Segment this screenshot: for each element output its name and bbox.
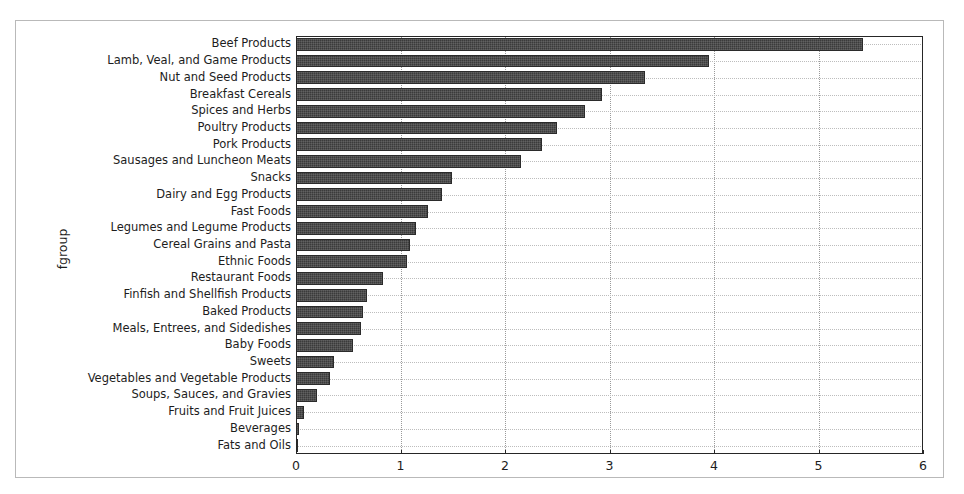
bar-row: Dairy and Egg Products — [296, 188, 923, 201]
bar — [296, 322, 361, 335]
bar — [296, 356, 334, 369]
bar-series: Beef ProductsLamb, Veal, and Game Produc… — [296, 36, 923, 454]
bar-row: Lamb, Veal, and Game Products — [296, 55, 923, 68]
bar-row: Spices and Herbs — [296, 105, 923, 118]
bar — [296, 239, 410, 252]
bar — [296, 188, 442, 201]
y-axis-tick-label: Ethnic Foods — [218, 256, 291, 268]
x-axis-tickmark — [296, 450, 297, 454]
y-axis-tick-label: Cereal Grains and Pasta — [153, 239, 291, 251]
x-axis-tick-label: 2 — [501, 458, 509, 473]
y-axis-tick-label: Finfish and Shellfish Products — [123, 289, 291, 301]
y-axis-tick-label: Legumes and Legume Products — [110, 222, 291, 234]
bar-row: Pork Products — [296, 138, 923, 151]
x-axis-tick-label: 5 — [815, 458, 823, 473]
bar-row: Baked Products — [296, 306, 923, 319]
y-axis-tick-label: Restaurant Foods — [191, 272, 291, 284]
x-axis-ticks: 0123456 — [296, 454, 923, 476]
y-axis-tick-label: Fats and Oils — [218, 440, 292, 452]
y-axis-tick-label: Baked Products — [202, 306, 291, 318]
bar — [296, 71, 645, 84]
x-axis-tick-label: 1 — [397, 458, 405, 473]
bar — [296, 105, 585, 118]
bar — [296, 38, 863, 51]
bar — [296, 255, 407, 268]
bar-row: Restaurant Foods — [296, 272, 923, 285]
bar — [296, 172, 452, 185]
bar-row: Meals, Entrees, and Sidedishes — [296, 322, 923, 335]
bar — [296, 222, 416, 235]
bar — [296, 372, 330, 385]
y-axis-tick-label: Fast Foods — [231, 206, 291, 218]
bar — [296, 406, 304, 419]
y-axis-tick-label: Fruits and Fruit Juices — [168, 406, 291, 418]
y-axis-tick-label: Beef Products — [212, 38, 291, 50]
y-axis-tick-label: Vegetables and Vegetable Products — [88, 373, 291, 385]
y-axis-tick-label: Dairy and Egg Products — [156, 189, 291, 201]
x-axis-tickmark — [923, 450, 924, 454]
bar-row: Legumes and Legume Products — [296, 222, 923, 235]
bar-row: Sweets — [296, 356, 923, 369]
y-axis-tick-label: Sausages and Luncheon Meats — [113, 155, 291, 167]
x-axis-tickmark — [714, 450, 715, 454]
y-axis-tick-label: Spices and Herbs — [191, 105, 291, 117]
bar — [296, 138, 542, 151]
bar-row: Fruits and Fruit Juices — [296, 406, 923, 419]
bar-row: Baby Foods — [296, 339, 923, 352]
bar — [296, 155, 521, 168]
plot-area: Beef ProductsLamb, Veal, and Game Produc… — [296, 36, 923, 454]
y-axis-tick-label: Sweets — [250, 356, 291, 368]
y-axis-tick-label: Meals, Entrees, and Sidedishes — [112, 323, 291, 335]
bar-row: Soups, Sauces, and Gravies — [296, 389, 923, 402]
y-axis-tick-label: Baby Foods — [225, 339, 291, 351]
bar — [296, 423, 299, 436]
bar-row: Fast Foods — [296, 205, 923, 218]
bar — [296, 55, 709, 68]
y-axis-tick-label: Beverages — [230, 423, 291, 435]
bar-row: Cereal Grains and Pasta — [296, 239, 923, 252]
x-axis-tick-label: 0 — [292, 458, 300, 473]
bar — [296, 289, 367, 302]
bar — [296, 389, 317, 402]
bar-row: Beverages — [296, 423, 923, 436]
x-axis-tick-label: 6 — [919, 458, 927, 473]
bar — [296, 272, 383, 285]
x-axis-tickmark — [610, 450, 611, 454]
y-axis-title: fgroup — [55, 229, 70, 270]
y-axis-tick-label: Poultry Products — [198, 122, 291, 134]
bar-row: Beef Products — [296, 38, 923, 51]
bar-row: Vegetables and Vegetable Products — [296, 372, 923, 385]
bar — [296, 122, 557, 135]
bar — [296, 306, 363, 319]
figure-canvas: fgroup Beef ProductsLamb, Veal, and Game… — [15, 20, 944, 478]
y-axis-tick-label: Snacks — [250, 172, 291, 184]
bar-row: Finfish and Shellfish Products — [296, 289, 923, 302]
bar-row: Snacks — [296, 172, 923, 185]
x-axis-tick-label: 3 — [606, 458, 614, 473]
bar — [296, 339, 353, 352]
bar — [296, 205, 428, 218]
y-axis-tick-label: Nut and Seed Products — [160, 72, 291, 84]
y-axis-tick-label: Soups, Sauces, and Gravies — [131, 389, 291, 401]
bar-row: Poultry Products — [296, 122, 923, 135]
bar-row: Breakfast Cereals — [296, 88, 923, 101]
bar-row: Nut and Seed Products — [296, 71, 923, 84]
y-axis-tick-label: Pork Products — [213, 139, 291, 151]
x-axis-tickmark — [505, 450, 506, 454]
x-axis-tickmark — [401, 450, 402, 454]
y-axis-tick-label: Lamb, Veal, and Game Products — [107, 55, 291, 67]
bar-row: Ethnic Foods — [296, 255, 923, 268]
bar-row: Sausages and Luncheon Meats — [296, 155, 923, 168]
x-axis-tickmark — [819, 450, 820, 454]
y-axis-tick-label: Breakfast Cereals — [190, 89, 291, 101]
x-axis-tick-label: 4 — [710, 458, 718, 473]
bar — [296, 88, 602, 101]
